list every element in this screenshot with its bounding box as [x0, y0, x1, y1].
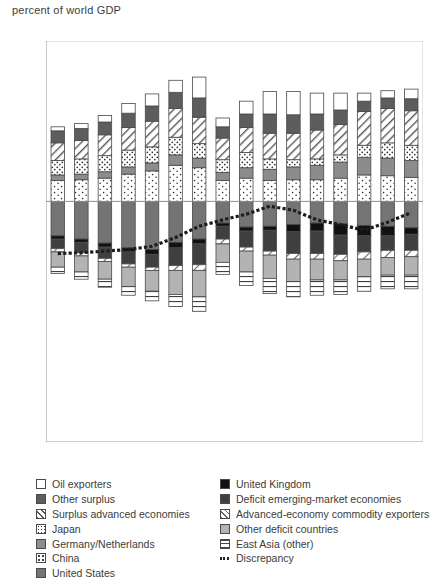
bar-segment-deficit_em	[51, 239, 65, 249]
bar-segment-united_states	[357, 201, 371, 225]
bar-segment-east_asia	[169, 294, 183, 306]
bar-segment-united_states	[263, 201, 277, 226]
bar-segment-deficit_em	[169, 248, 183, 266]
legend-item: East Asia (other)	[220, 538, 440, 551]
bar-segment-adv_commodity	[122, 264, 136, 267]
legend-item-label: Germany/Netherlands	[52, 538, 155, 551]
bar-segment-east_asia	[216, 262, 230, 274]
bar-segment-other_surplus	[98, 122, 112, 135]
bar-segment-deficit_em	[122, 252, 136, 264]
bar-segment-united_kingdom	[98, 243, 112, 247]
bar-segment-germany	[192, 158, 206, 168]
bar-segment-east_asia	[357, 277, 371, 291]
bar-segment-other_surplus	[169, 92, 183, 108]
bar-segment-other_surplus	[287, 115, 301, 133]
bar-segment-deficit_em	[357, 236, 371, 252]
bar-segment-oil_exporters	[263, 92, 277, 114]
legend-item-label: Surplus advanced economies	[52, 508, 190, 521]
united-states-swatch	[36, 568, 46, 578]
bar-segment-other_surplus	[310, 114, 324, 130]
bar-segment-oil_exporters	[381, 91, 395, 98]
bar-segment-oil_exporters	[169, 80, 183, 92]
bar-segment-germany	[122, 167, 136, 174]
bar-segment-other_surplus	[263, 114, 277, 133]
bar-segment-other_deficit	[381, 258, 395, 276]
bar-segment-china	[98, 178, 112, 201]
bar-segment-germany	[287, 167, 301, 180]
bar-segment-other_surplus	[51, 131, 65, 143]
y-axis-title: percent of world GDP	[12, 4, 121, 16]
legend-item-label: United Kingdom	[236, 478, 311, 491]
bar-segment-other_deficit	[310, 259, 324, 280]
bar-segment-united_states	[192, 201, 206, 239]
bar-segment-united_states	[122, 201, 136, 248]
stacked-bar-chart: 20100-10-20-30 200220052008201120142017	[46, 41, 423, 442]
legend-item: United Kingdom	[220, 478, 440, 491]
bar-segment-united_kingdom	[169, 242, 183, 248]
legend-item: Surplus advanced economies	[36, 508, 226, 521]
bar-segment-japan	[357, 145, 371, 157]
united-kingdom-swatch	[220, 479, 230, 489]
bar-segment-other_deficit	[287, 259, 301, 281]
bar-segment-adv_commodity	[192, 265, 206, 271]
bar-segment-japan	[240, 152, 254, 167]
bar-segment-surplus_advanced	[381, 108, 395, 142]
advanced-economy-commodity-exporters-swatch	[220, 509, 230, 519]
bar-segment-china	[51, 181, 65, 202]
bar-segment-other_surplus	[122, 113, 136, 127]
japan-swatch	[36, 524, 46, 534]
bar-segment-other_deficit	[240, 251, 254, 272]
chart-plot-area: 20100-10-20-30 200220052008201120142017	[46, 41, 423, 442]
bar-segment-other_surplus	[404, 99, 418, 111]
east-asia-other-swatch	[220, 539, 230, 549]
bar-segment-surplus_advanced	[216, 138, 230, 160]
bar-segment-east_asia	[263, 278, 277, 293]
bar-segment-other_surplus	[381, 98, 395, 108]
bar-segment-united_states	[51, 201, 65, 235]
bar-segment-adv_commodity	[287, 254, 301, 260]
bar-segment-deficit_em	[98, 247, 112, 258]
discrepancy-swatch	[220, 557, 230, 560]
bar-segment-adv_commodity	[334, 254, 348, 260]
legend-item-label: China	[52, 552, 79, 565]
chart-legend: Oil exportersOther surplusSurplus advanc…	[36, 478, 436, 578]
bar-segment-germany	[216, 173, 230, 181]
legend-item-label: United States	[52, 567, 115, 580]
bar-segment-germany	[334, 162, 348, 178]
legend-item: Deficit emerging-market economies	[220, 493, 440, 506]
bar-segment-other_surplus	[216, 127, 230, 138]
bar-segment-other_deficit	[98, 262, 112, 280]
bar-segment-japan	[98, 156, 112, 172]
bar-segment-japan	[381, 143, 395, 158]
bar-segment-united_states	[75, 201, 89, 239]
bar-segment-oil_exporters	[357, 93, 371, 101]
bar-segment-surplus_advanced	[404, 111, 418, 145]
bar-segment-united_kingdom	[310, 223, 324, 231]
bar-segment-united_kingdom	[51, 236, 65, 239]
bar-segment-surplus_advanced	[169, 108, 183, 137]
bar-segment-adv_commodity	[263, 251, 277, 255]
bar-segment-surplus_advanced	[145, 121, 159, 147]
bar-segment-japan	[216, 160, 230, 173]
legend-column-right: United KingdomDeficit emerging-market ec…	[220, 478, 440, 567]
bar-segment-surplus_advanced	[263, 133, 277, 159]
bar-segment-surplus_advanced	[357, 112, 371, 146]
legend-item: Advanced-economy commodity exporters	[220, 508, 440, 521]
bar-segment-japan	[263, 159, 277, 169]
surplus-advanced-economies-swatch	[36, 509, 46, 519]
bar-segment-surplus_advanced	[51, 143, 65, 161]
bar-segment-united_states	[145, 201, 159, 249]
bar-segment-surplus_advanced	[310, 130, 324, 159]
bar-segment-japan	[334, 155, 348, 162]
bar-segment-united_kingdom	[287, 225, 301, 232]
bar-segment-east_asia	[310, 280, 324, 295]
bar-segment-adv_commodity	[145, 267, 159, 270]
bar-segment-adv_commodity	[98, 258, 112, 261]
bar-segment-germany	[381, 158, 395, 176]
bar-segment-adv_commodity	[381, 250, 395, 257]
bar-segment-east_asia	[240, 272, 254, 286]
bar-segment-oil_exporters	[75, 124, 89, 129]
bar-segment-other_surplus	[334, 110, 348, 124]
bar-segment-adv_commodity	[404, 250, 418, 256]
bar-segment-surplus_advanced	[98, 135, 112, 156]
